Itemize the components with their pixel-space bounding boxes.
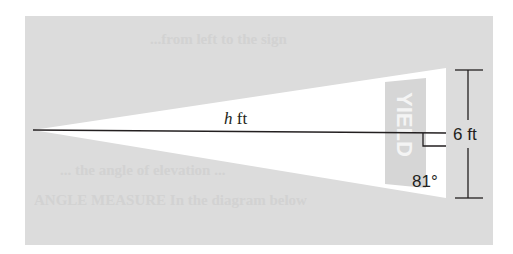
ghost-line-1: ...from left to the sign (150, 31, 287, 47)
h-variable: h (224, 109, 233, 128)
ghost-line-3: ANGLE MEASURE In the diagram below (34, 192, 307, 208)
label-h-ft: h ft (224, 109, 247, 128)
sign-text: YIELD (392, 92, 417, 157)
ghost-line-2: ... the angle of elevation ... (60, 162, 226, 178)
diagram-canvas: ...from left to the sign ... the angle o… (0, 0, 513, 254)
yield-sign-diagram: ...from left to the sign ... the angle o… (0, 0, 513, 254)
h-unit: ft (233, 109, 248, 128)
label-6ft: 6 ft (453, 125, 477, 144)
label-angle: 81° (412, 172, 438, 191)
